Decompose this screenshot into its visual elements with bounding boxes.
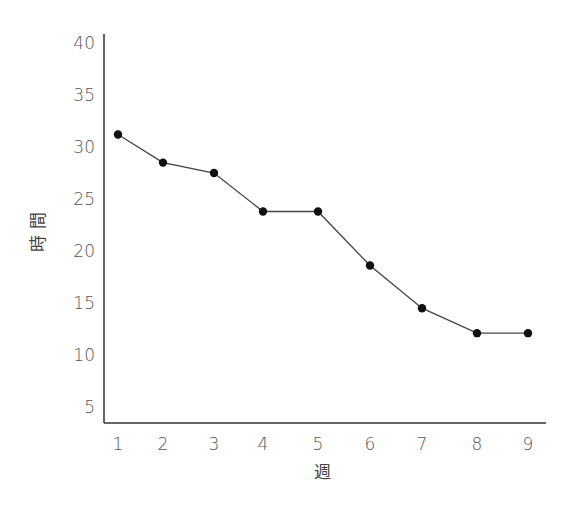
data-point (159, 158, 167, 166)
x-tick-label: 1 (113, 434, 124, 454)
y-tick-label: 30 (73, 137, 95, 157)
x-tick-label: 5 (313, 434, 324, 454)
x-tick-label: 2 (158, 434, 169, 454)
y-tick-label: 15 (73, 293, 95, 313)
x-tick-label: 4 (258, 434, 269, 454)
x-tick-label: 6 (365, 434, 376, 454)
y-tick-label: 20 (73, 241, 95, 261)
y-tick-label: 35 (73, 85, 95, 105)
data-point (366, 261, 374, 269)
line-chart: 510152025303540 123456789 週 時間 (0, 0, 578, 520)
y-tick-label: 5 (84, 397, 95, 417)
data-point (259, 207, 267, 215)
data-point-markers (114, 130, 532, 337)
data-point (418, 304, 426, 312)
x-tick-label: 9 (523, 434, 534, 454)
y-tick-label: 10 (73, 345, 95, 365)
data-point (210, 169, 218, 177)
y-axis-tick-labels: 510152025303540 (73, 33, 95, 417)
y-axis-title: 時間 (28, 206, 48, 252)
series-line (118, 135, 528, 334)
x-axis-tick-labels: 123456789 (113, 434, 534, 454)
y-tick-label: 40 (73, 33, 95, 53)
x-tick-label: 3 (209, 434, 220, 454)
y-tick-label: 25 (73, 189, 95, 209)
x-tick-label: 8 (472, 434, 483, 454)
data-point (524, 329, 532, 337)
data-point (114, 130, 122, 138)
x-axis-title: 週 (314, 462, 331, 482)
data-point (473, 329, 481, 337)
data-point (314, 207, 322, 215)
x-tick-label: 7 (417, 434, 428, 454)
